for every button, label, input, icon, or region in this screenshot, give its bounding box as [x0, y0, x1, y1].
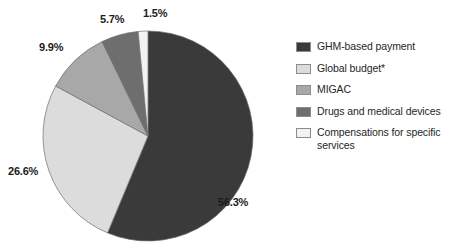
legend-item-label: Drugs and medical devices [317, 105, 441, 118]
legend-item[interactable]: Compensations for specific services [296, 126, 453, 152]
slice-label-compensations: 1.5% [143, 7, 167, 19]
slice-label-drugs-and-medical-devices: 5.7% [100, 13, 124, 25]
legend-swatch-icon [296, 64, 311, 74]
legend-item[interactable]: Global budget* [296, 62, 453, 75]
legend-item[interactable]: MIGAC [296, 83, 453, 96]
legend-swatch-icon [296, 42, 311, 52]
legend-swatch-icon [296, 85, 311, 95]
legend-item[interactable]: Drugs and medical devices [296, 105, 453, 118]
legend-swatch-icon [296, 128, 311, 138]
pie-chart-figure: GHM-based payment 56.3%Global budget* 26… [0, 0, 453, 252]
legend-item-label: Global budget* [317, 62, 385, 75]
slice-label-global-budget: 26.6% [8, 165, 38, 177]
legend-item[interactable]: GHM-based payment [296, 40, 453, 53]
slice-label-ghm-based-payment: 56.3% [218, 196, 248, 208]
pie-slices-group: GHM-based payment 56.3%Global budget* 26… [43, 31, 253, 241]
legend-item-label: MIGAC [317, 83, 351, 96]
legend-item-label: Compensations for specific services [317, 126, 453, 152]
chart-legend: GHM-based paymentGlobal budget*MIGACDrug… [296, 40, 453, 161]
legend-swatch-icon [296, 107, 311, 117]
legend-item-label: GHM-based payment [317, 40, 415, 53]
slice-label-migac: 9.9% [39, 41, 63, 53]
